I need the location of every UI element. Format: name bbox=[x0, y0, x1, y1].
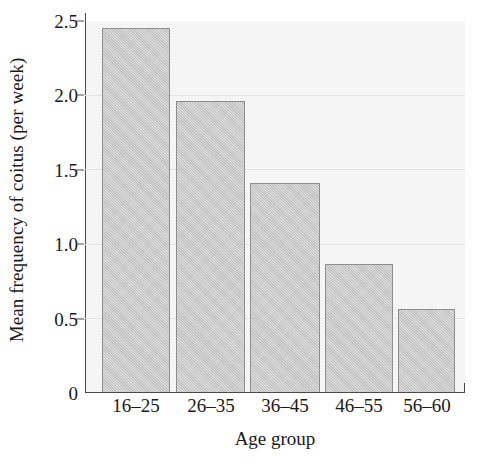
y-tick-mark bbox=[76, 95, 84, 96]
x-tick-label-16-25: 16–25 bbox=[112, 396, 160, 417]
bar-46-55 bbox=[325, 264, 393, 392]
y-axis-tick-labels: 2.5 2.0 1.5 1.0 0.5 0 bbox=[34, 0, 84, 420]
x-tick-label-46-55: 46–55 bbox=[335, 396, 383, 417]
y-tick-label: 0.5 bbox=[54, 310, 78, 329]
bar-26-35 bbox=[176, 101, 245, 392]
x-tick-label-26-35: 26–35 bbox=[187, 396, 235, 417]
y-tick-label: 2.0 bbox=[54, 86, 78, 105]
x-axis-tick-labels: 16–25 26–35 36–45 46–55 56–60 bbox=[85, 396, 465, 422]
bar-chart-figure: Mean frequency of coitus (per week) 2.5 … bbox=[0, 0, 480, 476]
y-tick-mark bbox=[76, 21, 84, 22]
plot-area bbox=[85, 21, 465, 393]
x-axis-right-tick bbox=[464, 383, 465, 393]
y-tick-mark bbox=[76, 244, 84, 245]
y-tick-label: 2.5 bbox=[54, 12, 78, 31]
y-axis-title: Mean frequency of coitus (per week) bbox=[0, 0, 34, 400]
x-axis-title: Age group bbox=[85, 428, 465, 450]
x-tick-label-56-60: 56–60 bbox=[403, 396, 451, 417]
y-tick-mark bbox=[76, 319, 84, 320]
bar-36-45 bbox=[250, 183, 320, 392]
bar-16-25 bbox=[102, 28, 170, 392]
bar-56-60 bbox=[398, 309, 455, 392]
y-tick-label: 1.5 bbox=[54, 161, 78, 180]
y-tick-label: 0 bbox=[69, 384, 79, 403]
y-tick-mark bbox=[76, 170, 84, 171]
x-tick-label-36-45: 36–45 bbox=[261, 396, 309, 417]
y-axis-title-text: Mean frequency of coitus (per week) bbox=[6, 58, 28, 343]
y-tick-label: 1.0 bbox=[54, 235, 78, 254]
